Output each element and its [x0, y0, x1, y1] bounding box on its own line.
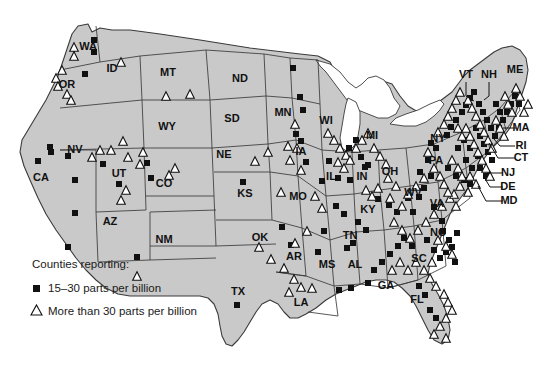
state-label-nh: NH — [481, 68, 497, 80]
marker-low-range — [386, 202, 392, 208]
state-label-al: AL — [348, 258, 363, 270]
marker-low-range — [144, 160, 150, 166]
marker-low-range — [433, 145, 439, 151]
state-label-la: LA — [294, 296, 309, 308]
marker-low-range — [346, 145, 352, 151]
state-label-ca: CA — [33, 171, 49, 183]
state-label-nd: ND — [232, 72, 248, 84]
marker-low-range — [453, 117, 459, 123]
marker-low-range — [303, 159, 309, 165]
state-label-wv: WV — [404, 186, 422, 198]
marker-low-range — [326, 158, 332, 164]
marker-low-range — [72, 177, 78, 183]
marker-low-range — [148, 175, 154, 181]
state-label-ms: MS — [319, 258, 336, 270]
state-label-ri: RI — [516, 139, 527, 151]
state-label-oh: OH — [382, 165, 399, 177]
state-label-ia: IA — [296, 145, 307, 157]
legend-filled-square-icon — [33, 285, 40, 292]
marker-low-range — [467, 181, 473, 187]
state-label-nv: NV — [67, 143, 83, 155]
state-label-ny: NY — [430, 132, 446, 144]
marker-low-range — [336, 287, 342, 293]
state-label-mt: MT — [160, 66, 176, 78]
marker-low-range — [341, 211, 347, 217]
state-label-ga: GA — [378, 279, 395, 291]
state-label-wi: WI — [319, 114, 332, 126]
state-label-az: AZ — [103, 215, 118, 227]
state-label-wy: WY — [158, 120, 176, 132]
marker-low-range — [371, 267, 377, 273]
state-label-in: IN — [357, 170, 368, 182]
legend-item-1-label: More than 30 parts per billion — [48, 305, 197, 317]
state-label-md: MD — [500, 194, 517, 206]
state-label-pa: PA — [429, 154, 444, 166]
marker-low-range — [455, 145, 461, 151]
marker-low-range — [363, 227, 369, 233]
marker-low-range — [484, 117, 490, 123]
marker-low-range — [234, 302, 240, 308]
marker-low-range — [355, 219, 361, 225]
marker-low-range — [401, 235, 407, 241]
state-label-or: OR — [59, 78, 76, 90]
marker-low-range — [516, 101, 522, 107]
marker-low-range — [448, 124, 454, 130]
marker-low-range — [421, 185, 427, 191]
marker-low-range — [379, 259, 385, 265]
marker-low-range — [437, 255, 443, 261]
marker-low-range — [446, 237, 452, 243]
state-label-ky: KY — [360, 203, 376, 215]
state-label-va: VA — [430, 197, 445, 209]
marker-low-range — [454, 230, 460, 236]
state-label-mi: MI — [366, 129, 378, 141]
marker-low-range — [493, 101, 499, 107]
state-label-ct: CT — [514, 151, 529, 163]
state-label-ma: MA — [512, 121, 529, 133]
marker-low-range — [116, 181, 122, 187]
marker-low-range — [134, 254, 140, 260]
marker-low-range — [453, 173, 459, 179]
marker-low-range — [65, 244, 71, 250]
marker-low-range — [439, 218, 445, 224]
marker-low-range — [433, 315, 439, 321]
state-label-ok: OK — [252, 231, 269, 243]
marker-low-range — [476, 101, 482, 107]
state-label-ks: KS — [237, 187, 252, 199]
state-label-me: ME — [507, 63, 524, 75]
state-label-nc: NC — [430, 226, 446, 238]
marker-low-range — [500, 117, 506, 123]
marker-low-range — [427, 307, 433, 313]
marker-low-range — [358, 154, 364, 160]
marker-low-range — [471, 89, 477, 95]
marker-low-range — [279, 224, 285, 230]
marker-low-range — [445, 165, 451, 171]
marker-low-range — [240, 179, 246, 185]
us-map-figure: WAORIDMTNDSDWYNVUTCACOAZNMNEKSOKTXMNIAMO… — [0, 0, 542, 374]
marker-low-range — [319, 178, 325, 184]
marker-low-range — [488, 125, 494, 131]
state-label-mo: MO — [289, 190, 307, 202]
state-label-sc: SC — [411, 252, 426, 264]
state-label-tn: TN — [343, 229, 358, 241]
marker-low-range — [395, 243, 401, 249]
marker-low-range — [344, 245, 350, 251]
marker-low-range — [353, 137, 359, 143]
state-label-ne: NE — [216, 148, 231, 160]
marker-low-range — [290, 65, 296, 71]
marker-low-range — [431, 247, 437, 253]
marker-low-range — [365, 162, 371, 168]
state-label-sd: SD — [224, 112, 239, 124]
marker-low-range — [417, 169, 423, 175]
state-label-ar: AR — [286, 250, 302, 262]
marker-low-range — [347, 177, 353, 183]
marker-low-range — [321, 228, 327, 234]
state-label-fl: FL — [410, 293, 424, 305]
state-label-nm: NM — [155, 233, 172, 245]
state-label-ut: UT — [112, 167, 127, 179]
state-label-vt: VT — [459, 68, 473, 80]
marker-low-range — [428, 173, 434, 179]
marker-low-range — [315, 249, 321, 255]
marker-low-range — [387, 251, 393, 257]
marker-low-range — [35, 158, 41, 164]
legend-title: Counties reporting: — [32, 258, 129, 270]
